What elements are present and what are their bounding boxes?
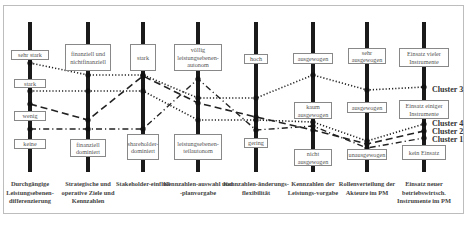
cluster-point [195,76,200,81]
cluster-label: Cluster 3 [432,85,463,94]
cluster-point [27,126,32,131]
option-box: ausgewogen [293,53,333,64]
option-box: stark [130,44,156,71]
option-box: finanziell dominiert [70,139,106,157]
option-box: kein Einsatz [402,145,446,160]
column-label: Einsatz neuer betriebswirtsch. Instrumen… [389,180,459,206]
option-box: sehr stark [11,50,49,60]
cluster-point [140,126,145,131]
cluster-label: Cluster 1 [432,135,463,144]
cluster-point [27,60,32,65]
option-box: Einsatz vieler Instrumente [399,48,449,67]
cluster-point [421,84,426,89]
option-box: sehr ausgewogen [348,48,386,64]
cluster-point [85,72,90,77]
cluster-point [364,87,369,92]
cluster-point [421,121,426,126]
option-box: leistungsebenen-teilautonom [174,134,222,160]
option-box: shareholder-dominiert [127,134,159,160]
option-box: hoch [244,54,268,64]
cluster-point [195,95,200,100]
option-box: gering [244,138,268,148]
option-box: stark [14,79,46,88]
cluster-point [85,117,90,122]
option-box: ausgewogen [347,102,387,113]
option-box: völlig leistungsebenen-autonom [174,44,222,71]
option-box: Einsatz einiger Instrumente [399,100,449,119]
cluster-point [253,127,258,132]
cluster-point [27,88,32,93]
cluster-point [140,73,145,78]
option-box: nicht ausgewogen [294,149,332,166]
cluster-point [310,72,315,77]
option-box: kaum ausgewogen [294,102,332,119]
option-box: keine [14,139,46,149]
cluster-point [253,95,258,100]
cluster-point [85,126,90,131]
cluster-profile-diagram: sehr starkstarkwenigkeinefinanziell und … [0,0,470,225]
cluster-point [85,88,90,93]
cluster-point [421,128,426,133]
cluster-point [140,88,145,93]
cluster-point [310,123,315,128]
cluster-point [195,100,200,105]
option-box: finanziell und nichtfinanziell [65,44,111,71]
cluster-point [195,117,200,122]
option-box: unausgewogen [347,149,387,160]
cluster-point [27,101,32,106]
cluster-point [421,135,426,140]
option-box: wenig [14,111,46,121]
cluster-point [253,114,258,119]
